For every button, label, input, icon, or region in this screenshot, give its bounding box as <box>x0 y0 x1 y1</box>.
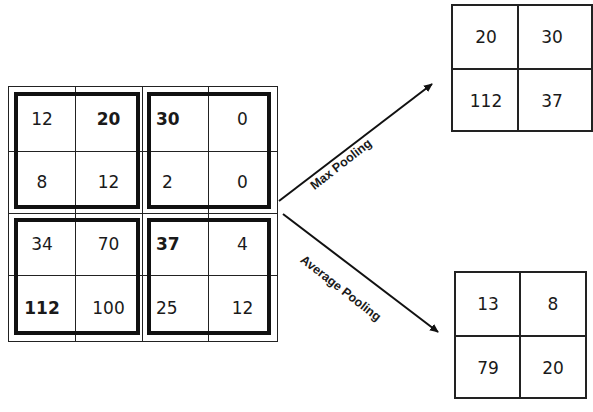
output-cell: 8 <box>521 273 585 335</box>
output-cell: 20 <box>521 337 585 399</box>
output-cell: 37 <box>519 70 585 132</box>
output-cell: 112 <box>453 70 519 132</box>
average-pooling-output: 13 8 79 20 <box>454 271 587 399</box>
output-cell: 79 <box>456 337 520 399</box>
output-cell: 13 <box>456 273 520 335</box>
average-pooling-arrow <box>283 214 438 332</box>
output-cell: 30 <box>519 6 585 68</box>
output-cell: 20 <box>453 6 519 68</box>
max-pooling-output: 20 30 112 37 <box>451 4 593 132</box>
